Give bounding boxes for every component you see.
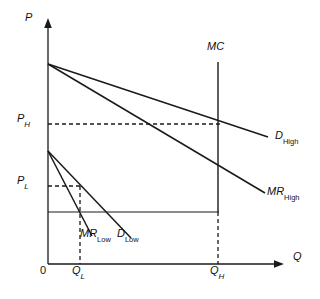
tick-label-p-low: PL: [17, 175, 29, 189]
chart-canvas: [0, 0, 320, 299]
curve-mr-low: [48, 151, 92, 236]
curve-d-high: [48, 64, 268, 137]
price-discrimination-figure: P Q 0 PH PL QL QH MC DHigh MRHigh MRLow …: [0, 0, 320, 299]
curve-label-mr-low-sub: Low: [97, 235, 111, 244]
x-axis-arrow-icon: [274, 260, 284, 268]
y-axis-label: P: [25, 12, 32, 23]
curve-label-mr-low-base: MR: [80, 227, 97, 239]
tick-label-q-high-base: Q: [210, 264, 219, 276]
tick-label-q-high-sub: H: [219, 272, 225, 281]
tick-label-p-high: PH: [17, 113, 30, 127]
y-axis-arrow-icon: [44, 18, 52, 28]
curve-label-mr-high-base: MR: [267, 185, 284, 197]
curve-label-d-high: DHigh: [275, 130, 298, 144]
tick-label-p-high-sub: H: [24, 120, 30, 129]
tick-label-q-low-sub: L: [81, 272, 85, 281]
curve-label-mr-high: MRHigh: [267, 186, 300, 200]
curve-label-mr-low: MRLow: [80, 228, 111, 242]
origin-label: 0: [40, 265, 46, 276]
tick-label-q-low: QL: [72, 265, 85, 279]
curve-mr-high: [48, 64, 265, 193]
curve-label-mc-base: MC: [207, 40, 224, 52]
tick-label-p-low-sub: L: [24, 182, 28, 191]
curve-label-d-low-sub: Low: [125, 235, 139, 244]
curve-d-low: [48, 151, 131, 238]
curve-label-mc: MC: [207, 41, 224, 52]
curve-label-d-low: DLow: [117, 228, 139, 242]
curve-label-d-high-base: D: [275, 129, 283, 141]
curve-label-mr-high-sub: High: [284, 193, 299, 202]
tick-label-q-low-base: Q: [72, 264, 81, 276]
curve-label-d-high-sub: High: [283, 137, 298, 146]
x-axis-label: Q: [293, 251, 302, 262]
tick-label-q-high: QH: [210, 265, 224, 279]
curve-label-d-low-base: D: [117, 227, 125, 239]
